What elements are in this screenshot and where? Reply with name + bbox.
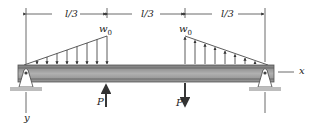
y-axis-label: y xyxy=(22,113,32,123)
dimension-label-3: l/3 xyxy=(219,9,236,19)
load-label-left: w0 xyxy=(97,24,114,37)
dimension-label-1: l/3 xyxy=(63,9,80,19)
load-label-right-symbol: w xyxy=(179,23,188,34)
beam-diagram: l/3 l/3 l/3 w0 w0 P P x y xyxy=(0,0,313,127)
dimension-label-2: l/3 xyxy=(139,9,156,19)
load-label-right-subscript: 0 xyxy=(188,29,192,37)
point-load-label-right: P xyxy=(174,98,185,108)
distributed-load-left xyxy=(24,36,107,65)
distributed-load-right xyxy=(185,36,268,65)
load-label-left-subscript: 0 xyxy=(108,29,112,37)
x-axis-label: x xyxy=(297,66,307,76)
load-label-right: w0 xyxy=(177,24,194,37)
load-label-left-symbol: w xyxy=(99,23,108,34)
point-load-label-left: P xyxy=(95,97,106,107)
beam-diagram-svg xyxy=(0,0,313,127)
beam xyxy=(18,65,274,82)
